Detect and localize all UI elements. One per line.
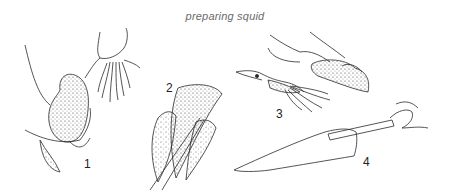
step-2-number: 2	[166, 81, 173, 95]
squid-body	[49, 74, 89, 142]
pulling-hand	[98, 28, 128, 59]
arm-line	[25, 45, 50, 105]
cleaned-body-tube	[234, 129, 357, 172]
peeled-skin	[311, 60, 368, 92]
step-3-number: 3	[276, 107, 283, 121]
hand-upper	[270, 35, 330, 62]
scraping-knife	[328, 120, 394, 140]
step-1-drawing: 1	[25, 28, 140, 172]
tentacles	[98, 60, 140, 102]
step-1-number: 1	[84, 157, 91, 171]
squid-eye	[255, 74, 258, 77]
step-2-drawing: 2	[150, 81, 222, 190]
squid-illustration: 1 2 3 4	[0, 0, 450, 193]
squid-neck	[85, 58, 100, 78]
step-4-number: 4	[363, 155, 370, 169]
squid-fin	[40, 140, 60, 172]
step-4-drawing: 4	[234, 102, 428, 172]
hand-with-knife	[390, 110, 428, 128]
step-3-drawing: 3	[236, 32, 369, 121]
